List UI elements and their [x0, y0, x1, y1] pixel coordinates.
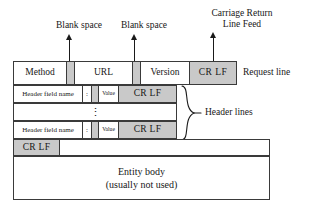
request-line-cell-method: Method [13, 61, 66, 85]
annotation-blank-space-2: Blank space [108, 20, 180, 31]
vertical-ellipsis-icon: ⋮ [14, 104, 176, 120]
request-line-row: Method URL Version CR LF [13, 61, 237, 85]
request-line-label: Request line [243, 67, 290, 78]
header-line-cell-field-name: Header field name [13, 121, 82, 139]
header-line-cell-value: Value [98, 85, 118, 103]
request-line-cell-url: URL [74, 61, 132, 85]
header-line-row-last: Header field name : Value CR LF [13, 121, 177, 139]
header-line-cell-value: Value [98, 121, 118, 139]
blank-line-row: CR LF [13, 139, 270, 156]
http-request-message-diagram: Blank space Blank space Carriage Return … [0, 0, 325, 206]
header-line-cell-blank-space [91, 121, 98, 139]
request-line-cell-crlf: CR LF [189, 61, 237, 85]
header-line-cell-field-name: Header field name [13, 85, 82, 103]
header-line-cell-colon: : [82, 121, 91, 139]
blank-line-cell-crlf: CR LF [13, 139, 59, 156]
annotation-line-feed: Line Feed [192, 19, 292, 30]
header-line-cell-colon: : [82, 85, 91, 103]
header-line-cell-crlf: CR LF [118, 121, 177, 139]
entity-body-box: Entity body (usually not used) [13, 156, 270, 200]
header-lines-ellipsis-row: ⋮ [13, 103, 177, 121]
entity-body-line-2: (usually not used) [106, 178, 178, 191]
blank-line-cell-filler [59, 139, 270, 156]
request-line-cell-version: Version [140, 61, 189, 85]
header-line-cell-blank-space [91, 85, 98, 103]
arrow-blank-space-1 [69, 39, 70, 61]
arrow-blank-space-2 [134, 39, 135, 61]
header-line-cell-crlf: CR LF [118, 85, 177, 103]
header-line-row-first: Header field name : Value CR LF [13, 85, 177, 103]
entity-body-line-1: Entity body [118, 165, 165, 178]
header-lines-brace [180, 84, 206, 142]
request-line-cell-blank-space-2 [132, 61, 140, 85]
arrow-carriage-return-line-feed [213, 37, 214, 61]
annotation-carriage-return: Carriage Return [192, 8, 292, 19]
request-line-cell-blank-space-1 [66, 61, 74, 85]
annotation-blank-space-1: Blank space [43, 20, 115, 31]
header-lines-label: Header lines [205, 107, 253, 118]
